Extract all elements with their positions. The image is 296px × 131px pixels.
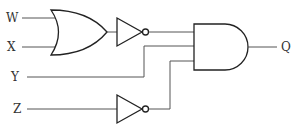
not-gate-2 <box>117 95 142 123</box>
not-gate-2-bubble <box>143 106 149 112</box>
input-label-y: Y <box>11 71 19 83</box>
not-gate-1-bubble <box>143 29 149 35</box>
input-label-x: X <box>7 41 16 53</box>
input-label-w: W <box>6 12 18 24</box>
and-gate <box>194 24 248 70</box>
input-label-z: Z <box>13 103 21 115</box>
wire-y <box>27 46 194 77</box>
circuit-canvas <box>0 0 296 131</box>
output-label-q: Q <box>281 41 291 53</box>
or-gate <box>51 10 107 55</box>
wire-not2-to-and <box>149 61 194 109</box>
not-gate-1 <box>117 18 142 46</box>
logic-circuit-diagram: W X Y Z Q <box>0 0 296 131</box>
